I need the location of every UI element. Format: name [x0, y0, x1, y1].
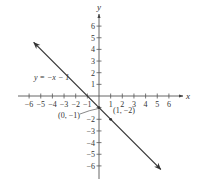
point-0-leader-line	[80, 109, 98, 114]
y-tick-label: −5	[86, 150, 95, 159]
y-tick-label: −2	[86, 115, 95, 124]
x-tick-label: −4	[48, 100, 57, 109]
x-tick-label: −5	[36, 100, 45, 109]
y-tick-label: 2	[91, 69, 95, 78]
x-tick-label: −3	[60, 100, 69, 109]
y-tick-label: 1	[91, 80, 95, 89]
y-tick-label: 6	[91, 22, 95, 31]
x-tick-label: −2	[71, 100, 80, 109]
line-graph: x y −6−5−4−3−2−1123456 654321−2−3−4−5−6 …	[0, 0, 197, 189]
point-0-minus1	[98, 106, 101, 109]
x-tick-label: 4	[144, 100, 148, 109]
x-tick-label: 5	[155, 100, 159, 109]
y-tick-label: −6	[86, 162, 95, 171]
y-tick-label: −4	[86, 139, 95, 148]
x-tick-label: −1	[83, 100, 92, 109]
y-tick-label: −3	[86, 127, 95, 136]
annotations: y = −x − 1 (0, −1) (1, −2)	[33, 73, 135, 121]
x-tick-label: 6	[167, 100, 171, 109]
point-1-minus2	[109, 118, 112, 121]
y-tick-label: 4	[91, 45, 95, 54]
x-axis-label: x	[185, 91, 190, 101]
y-tick-label: 5	[91, 34, 95, 43]
y-tick-label: 3	[91, 57, 95, 66]
axes: x y	[18, 2, 190, 179]
series-line-lower	[97, 106, 160, 169]
point-label-0-minus1: (0, −1)	[58, 111, 80, 120]
equation-label: y = −x − 1	[33, 73, 69, 82]
x-tick-label: −6	[25, 100, 34, 109]
point-label-1-minus2: (1, −2)	[113, 106, 135, 115]
y-axis-label: y	[96, 2, 101, 12]
